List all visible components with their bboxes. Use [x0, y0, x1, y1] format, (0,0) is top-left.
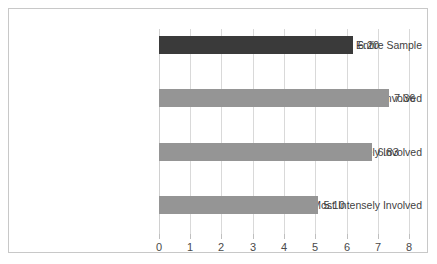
value-label-least-intensely-involved: 7.36 — [389, 89, 415, 107]
value-label-entire-sample: 6.20 — [353, 36, 379, 54]
bar-most-intensely-involved — [159, 196, 318, 214]
tickmark-0 — [159, 234, 160, 239]
tickmark-5 — [315, 234, 316, 239]
tickmark-2 — [221, 234, 222, 239]
x-axis-tick-label: 3 — [238, 240, 268, 254]
x-axis-tick-label: 0 — [144, 240, 174, 254]
x-axis-tick-label: 1 — [175, 240, 205, 254]
x-axis-tick-label: 7 — [363, 240, 393, 254]
tickmark-7 — [378, 234, 379, 239]
x-axis-tick-label: 4 — [269, 240, 299, 254]
x-axis-tick-label: 5 — [300, 240, 330, 254]
bar-least-intensely-involved — [159, 89, 389, 107]
tickmark-6 — [347, 234, 348, 239]
x-axis-tick-label: 6 — [332, 240, 362, 254]
value-label-most-intensely-involved: 5.10 — [318, 196, 344, 214]
bar-entire-sample — [159, 36, 353, 54]
x-axis-tick-label: 8 — [394, 240, 424, 254]
bar-chart: 0 1 2 3 4 5 6 7 8 Entire Sample 6.20 Lea… — [0, 0, 437, 264]
tickmark-1 — [190, 234, 191, 239]
x-axis-tick-label: 2 — [206, 240, 236, 254]
tickmark-4 — [284, 234, 285, 239]
tickmark-8 — [409, 234, 410, 239]
value-label-moderately-intensely-involved: 6.83 — [372, 143, 398, 161]
tickmark-3 — [253, 234, 254, 239]
chart-frame: 0 1 2 3 4 5 6 7 8 Entire Sample 6.20 Lea… — [8, 8, 428, 253]
bar-moderately-intensely-involved — [159, 143, 372, 161]
